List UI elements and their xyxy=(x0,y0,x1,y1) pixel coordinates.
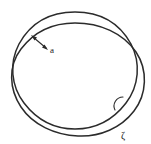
geometric-figure: a ζ xyxy=(0,0,151,144)
figure-container: a ζ xyxy=(0,0,151,144)
figure-background xyxy=(0,0,151,144)
gap-label-a: a xyxy=(50,45,54,55)
angle-label-zeta: ζ xyxy=(121,130,125,142)
